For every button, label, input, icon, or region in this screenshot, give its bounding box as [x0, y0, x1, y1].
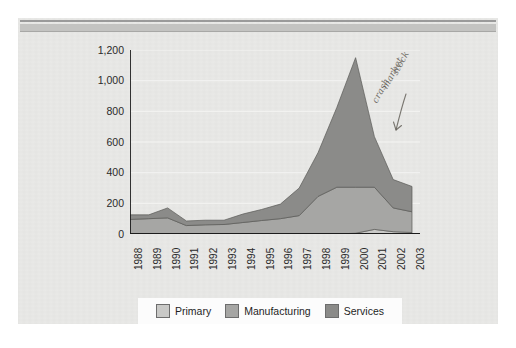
x-axis-tick-label: 2003 [416, 248, 426, 270]
legend-label: Primary [175, 305, 211, 317]
x-axis-tick-label: 1991 [190, 248, 200, 270]
y-axis-tick-label: 400 [106, 167, 124, 178]
chart-legend: PrimaryManufacturingServices [138, 298, 402, 324]
x-axis-tick-label: 1990 [172, 248, 182, 270]
y-axis-tick-label: 800 [106, 106, 124, 117]
y-axis-tick-label: 200 [106, 198, 124, 209]
legend-swatch [156, 304, 170, 318]
x-axis-tick-label: 1992 [209, 248, 219, 270]
y-axis-tick-label: 1,000 [98, 75, 124, 86]
chart-canvas [130, 50, 420, 234]
legend-item[interactable]: Primary [156, 304, 211, 318]
legend-swatch [225, 304, 239, 318]
legend-label: Services [344, 305, 384, 317]
y-axis-labels: 02004006008001,0001,200 [58, 44, 124, 240]
stacked-area-chart: 02004006008001,0001,200 1988198919901991… [18, 36, 498, 304]
x-axis-tick-label: 1994 [247, 248, 257, 270]
x-axis-tick-label: 1997 [303, 248, 313, 270]
legend-item[interactable]: Services [325, 304, 384, 318]
y-axis-tick-label: 1,200 [98, 45, 124, 56]
legend-item[interactable]: Manufacturing [225, 304, 311, 318]
area-bands [130, 58, 412, 234]
header-rule-top [20, 20, 496, 22]
x-axis-tick-label: 1999 [341, 248, 351, 270]
plot-area [130, 50, 420, 234]
legend-swatch [325, 304, 339, 318]
header-rule-band [20, 24, 496, 31]
x-axis-labels: 1988198919901991199219931994199519961997… [130, 236, 430, 286]
x-axis-tick-label: 1989 [153, 248, 163, 270]
y-axis-tick-label: 600 [106, 137, 124, 148]
header-rule-bottom [20, 31, 496, 32]
legend-label: Manufacturing [244, 305, 311, 317]
x-axis-tick-label: 1988 [134, 248, 144, 270]
x-axis-tick-label: 2002 [397, 248, 407, 270]
y-axis-tick-label: 0 [118, 229, 124, 240]
x-axis-tick-label: 1996 [284, 248, 294, 270]
x-axis-tick-label: 1995 [266, 248, 276, 270]
x-axis-tick-label: 1993 [228, 248, 238, 270]
screenshot-root: 02004006008001,0001,200 1988198919901991… [0, 0, 516, 348]
x-axis-tick-label: 2001 [378, 248, 388, 270]
x-axis-tick-label: 1998 [322, 248, 332, 270]
x-axis-tick-label: 2000 [360, 248, 370, 270]
